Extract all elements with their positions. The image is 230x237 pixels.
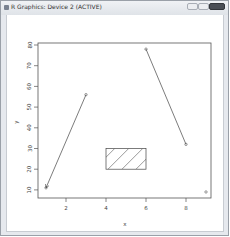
y-axis-label: y bbox=[13, 120, 20, 124]
x-tick-label: 6 bbox=[144, 205, 148, 211]
y-axis: 1020304050607080 bbox=[27, 41, 39, 193]
y-tick-label: 80 bbox=[27, 41, 33, 48]
y-tick-label: 20 bbox=[27, 165, 33, 172]
x-tick-label: 2 bbox=[64, 205, 68, 211]
plot-canvas: 1020304050607080 2468 x y bbox=[0, 0, 230, 237]
y-tick-label: 70 bbox=[27, 62, 33, 69]
plot-box bbox=[38, 43, 211, 198]
y-tick-label: 10 bbox=[27, 186, 33, 193]
segment-annotation bbox=[146, 49, 186, 144]
x-axis-label: x bbox=[123, 221, 127, 227]
y-tick-label: 60 bbox=[27, 82, 33, 89]
hatched-rectangle bbox=[66, 149, 185, 170]
x-tick-label: 4 bbox=[104, 205, 108, 211]
data-point bbox=[205, 191, 207, 193]
data-series bbox=[45, 48, 207, 193]
x-axis: 2468 bbox=[64, 198, 188, 211]
y-tick-label: 50 bbox=[27, 103, 33, 110]
arrow-annotation bbox=[46, 95, 86, 188]
y-tick-label: 40 bbox=[27, 124, 33, 131]
x-tick-label: 8 bbox=[184, 205, 188, 211]
y-tick-label: 30 bbox=[27, 145, 33, 152]
